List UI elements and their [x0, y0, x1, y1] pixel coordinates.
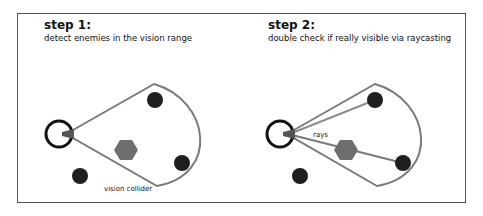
enemy-icon [147, 92, 163, 108]
vision-collider-label: vision collider [104, 185, 152, 193]
step2-diagram [267, 84, 421, 186]
step1-diagram [46, 84, 200, 186]
player-direction-icon [62, 129, 74, 139]
enemy-icon [72, 168, 88, 184]
ray-line [292, 100, 375, 133]
player-direction-icon [283, 129, 295, 139]
rays-label: rays [313, 131, 328, 139]
enemy-icon [174, 155, 190, 171]
obstacle-hexagon-icon [114, 140, 138, 160]
enemy-icon [395, 155, 411, 171]
enemy-icon [367, 92, 383, 108]
enemy-icon [292, 168, 308, 184]
obstacle-hexagon-icon [334, 140, 358, 160]
diagram-graphics [0, 0, 483, 216]
